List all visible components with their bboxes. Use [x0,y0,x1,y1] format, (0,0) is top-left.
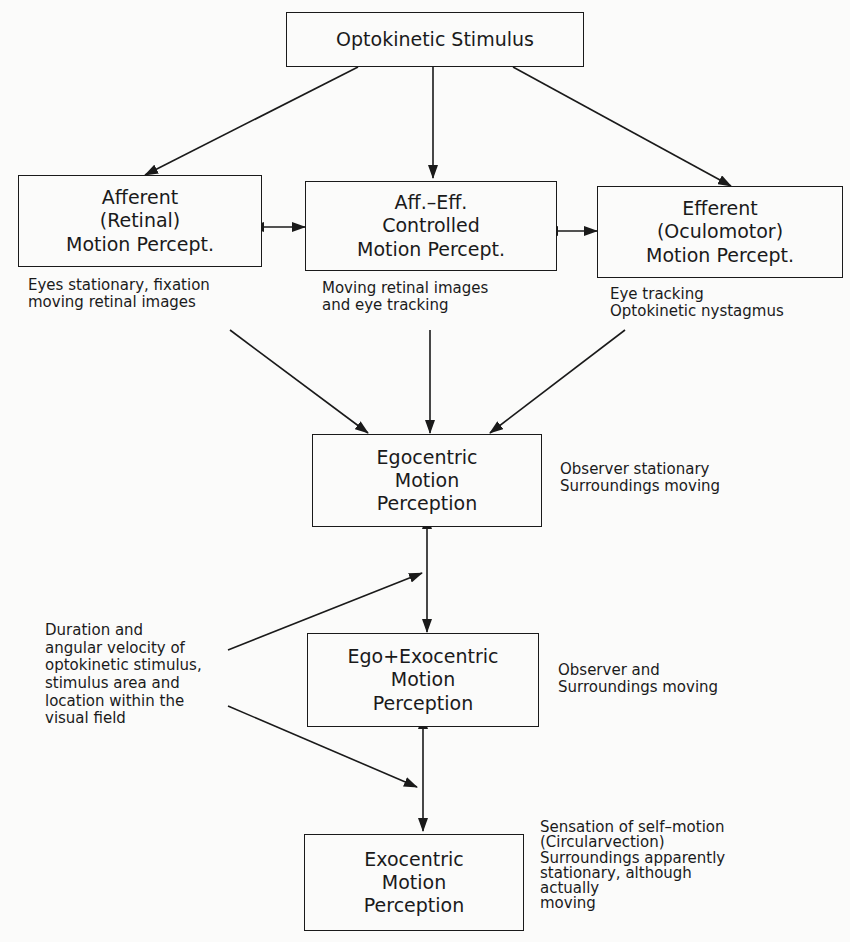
note-line: Eye tracking [610,286,784,303]
note-line: Duration and [45,622,202,640]
note-line: Observer stationary [560,461,720,478]
box-label: Motion [395,469,459,492]
box-label: Motion Percept. [646,244,794,267]
note-line: Optokinetic nystagmus [610,303,784,320]
note-line: angular velocity of [45,640,202,658]
box-label: Motion Percept. [66,233,214,256]
box-ego-exocentric-motion-perception: Ego+Exocentric Motion Perception [307,633,539,727]
box-label: Perception [377,492,477,515]
arrow-efferent-to-egocentric [490,330,625,433]
box-label: Egocentric [377,446,478,469]
note-line: Eyes stationary, fixation [28,277,210,294]
note-ego-exo: Observer and Surroundings moving [558,662,718,696]
note-efferent: Eye tracking Optokinetic nystagmus [610,286,784,320]
note-afferent: Eyes stationary, fixation moving retinal… [28,277,210,311]
arrow-stimulus-to-afferent [145,67,358,175]
box-optokinetic-stimulus: Optokinetic Stimulus [286,12,584,67]
box-egocentric-motion-perception: Egocentric Motion Perception [312,434,542,527]
box-afferent-motion-percept: Afferent (Retinal) Motion Percept. [18,175,262,267]
note-line: Surroundings moving [560,478,720,495]
note-line: Moving retinal images [322,280,488,297]
note-line: moving retinal images [28,294,210,311]
box-label: Exocentric [364,848,463,871]
arrow-stimulus-to-efferent [513,67,731,186]
box-label: Aff.–Eff. [395,191,468,214]
note-line: Observer and [558,662,718,679]
box-label: Motion [382,871,446,894]
box-label: (Oculomotor) [657,220,783,243]
note-aff-eff: Moving retinal images and eye tracking [322,280,488,314]
box-label: Perception [373,692,473,715]
note-line: location within the [45,693,202,711]
box-label: Motion [391,668,455,691]
note-line: Surroundings moving [558,679,718,696]
box-label: Optokinetic Stimulus [336,28,534,51]
note-stimulus-factors: Duration and angular velocity of optokin… [45,622,202,728]
box-label: Perception [364,894,464,917]
note-line: visual field [45,710,202,728]
note-exocentric: Sensation of self–motion (Circularvectio… [540,820,725,912]
note-line: and eye tracking [322,297,488,314]
box-label: Efferent [682,197,757,220]
box-label: Controlled [382,214,480,237]
box-efferent-motion-percept: Efferent (Oculomotor) Motion Percept. [597,186,843,278]
box-label: (Retinal) [100,209,181,232]
note-line: moving [540,896,725,911]
box-aff-eff-controlled-motion-percept: Aff.–Eff. Controlled Motion Percept. [305,181,557,271]
box-exocentric-motion-perception: Exocentric Motion Perception [304,834,524,931]
arrow-afferent-to-egocentric [230,330,368,433]
note-egocentric: Observer stationary Surroundings moving [560,461,720,495]
note-line: optokinetic stimulus, [45,657,202,675]
note-line: stimulus area and [45,675,202,693]
box-label: Afferent [102,186,178,209]
box-label: Ego+Exocentric [347,645,498,668]
box-label: Motion Percept. [357,238,505,261]
